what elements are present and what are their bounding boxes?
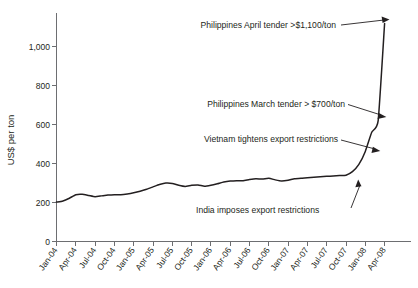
price-line-series (57, 23, 385, 202)
annotation-philippines-april-arrowhead (382, 17, 390, 23)
x-tick-label-5: Apr-05 (133, 245, 156, 272)
x-axis-ticks (57, 242, 385, 247)
y-tick-label-1000: 1,000 (29, 42, 51, 52)
annotation-philippines-april: Philippines April tender >$1,100/ton (201, 17, 390, 30)
x-tick-label-9: Apr-06 (211, 245, 234, 272)
annotation-india-restrictions: India imposes export restrictions (196, 179, 362, 215)
x-tick-label-8: Jan-06 (191, 245, 214, 272)
x-tick-label-0: Jan-04 (37, 245, 60, 272)
y-axis-ticks (52, 47, 57, 242)
y-tick-label-200: 200 (36, 198, 50, 208)
annotation-vietnam-restrictions-arrowhead (372, 147, 381, 153)
annotation-vietnam-restrictions: Vietnam tightens export restrictions (204, 134, 380, 153)
x-tick-label-1: Apr-04 (56, 245, 79, 272)
x-axis-tick-labels: Jan-04 Apr-04 Jul-04 Oct-04 Jan-05 Apr-0… (37, 245, 388, 272)
x-tick-label-4: Jan-05 (114, 245, 137, 272)
annotation-philippines-march-label: Philippines March tender > $700/ton (207, 99, 345, 109)
y-tick-label-800: 800 (36, 81, 50, 91)
rice-price-chart: 0 200 400 600 800 1,000 US$ per ton (0, 0, 418, 288)
annotation-philippines-april-label: Philippines April tender >$1,100/ton (201, 20, 337, 30)
chart-canvas: 0 200 400 600 800 1,000 US$ per ton (0, 0, 418, 288)
annotation-india-restrictions-arrowhead (355, 179, 361, 187)
x-tick-label-13: Apr-07 (288, 245, 311, 272)
annotation-philippines-march-arrowhead (378, 113, 387, 119)
annotation-philippines-march: Philippines March tender > $700/ton (207, 99, 386, 119)
x-tick-label-16: Jan-08 (345, 245, 368, 272)
annotation-vietnam-restrictions-label: Vietnam tightens export restrictions (204, 134, 338, 144)
y-tick-label-600: 600 (36, 120, 50, 130)
y-tick-label-400: 400 (36, 159, 50, 169)
x-tick-label-17: Apr-08 (365, 245, 388, 272)
annotation-india-restrictions-label: India imposes export restrictions (196, 205, 319, 215)
y-tick-label-0: 0 (45, 237, 50, 247)
x-tick-label-12: Jan-07 (268, 245, 291, 272)
y-axis-title: US$ per ton (5, 115, 16, 166)
